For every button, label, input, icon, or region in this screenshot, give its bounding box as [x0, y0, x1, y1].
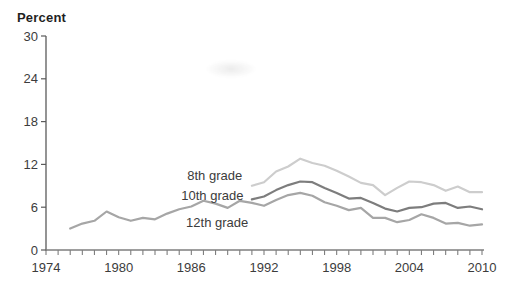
y-tick-label: 30 [24, 29, 38, 44]
y-tick-label: 18 [24, 114, 38, 129]
series-line-8th-grade [252, 159, 482, 195]
y-tick-label: 6 [31, 200, 38, 215]
x-tick-label: 1986 [177, 260, 206, 275]
y-tick-label: 0 [31, 243, 38, 258]
x-tick-label: 1974 [32, 260, 61, 275]
x-axis: 1974198019861992199820042010 [32, 250, 497, 275]
series-label-12th-grade: 12th grade [186, 215, 248, 230]
y-axis: 0612182430 [24, 29, 46, 258]
series-label-8th-grade: 8th grade [187, 168, 242, 183]
x-tick-label: 2004 [395, 260, 424, 275]
y-tick-label: 12 [24, 157, 38, 172]
series-label-10th-grade: 10th grade [181, 188, 243, 203]
y-tick-label: 24 [24, 71, 38, 86]
x-tick-label: 2010 [468, 260, 497, 275]
y-axis-title: Percent [17, 10, 66, 25]
line-chart: 061218243019741980198619921998200420108t… [0, 0, 515, 300]
x-tick-label: 1980 [104, 260, 133, 275]
chart-figure: Percent 06121824301974198019861992199820… [0, 0, 515, 300]
series-line-12th-grade [70, 193, 482, 229]
x-tick-label: 1992 [250, 260, 279, 275]
x-tick-label: 1998 [322, 260, 351, 275]
